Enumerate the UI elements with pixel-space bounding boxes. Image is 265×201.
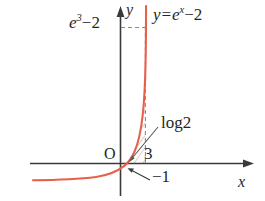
origin-label: O: [104, 146, 116, 162]
math-figure: e3−2 y=ex−2 y x O 3 log2 −1: [0, 0, 265, 201]
shaded-region-label: log2: [161, 114, 191, 131]
exponential-curve: [33, 6, 146, 180]
plot-canvas: [0, 0, 265, 201]
y-axis-label: y: [126, 2, 133, 18]
y-intercept-label: −1: [152, 168, 170, 185]
x-axis-tick-label-3: 3: [144, 145, 153, 162]
x-axis-label: x: [238, 174, 245, 190]
y-intercept-arrow: [128, 168, 151, 180]
curve-equation-label: y=ex−2: [153, 5, 202, 23]
y-axis-tick-label-e3-minus-2: e3−2: [69, 13, 100, 31]
